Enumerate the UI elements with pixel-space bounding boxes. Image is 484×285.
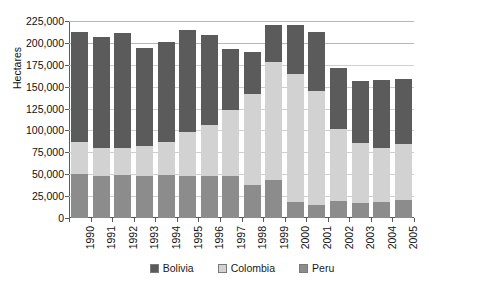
bar-segment-peru-1990 — [71, 174, 88, 218]
legend-item-colombia[interactable]: Colombia — [218, 262, 275, 274]
x-axis-label-2003: 2003 — [364, 226, 376, 249]
x-axis-tick-mark — [285, 218, 286, 222]
bar-segment-peru-2004 — [373, 202, 390, 218]
x-axis-label-1993: 1993 — [148, 226, 160, 249]
bar-segment-peru-1992 — [114, 175, 131, 218]
bar-segment-peru-1995 — [179, 176, 196, 218]
bar-segment-peru-1998 — [244, 185, 261, 218]
x-axis-label-2001: 2001 — [321, 226, 333, 249]
bar-segment-bolivia-2003 — [352, 81, 369, 142]
bar-1995 — [179, 21, 196, 218]
x-axis-label-2002: 2002 — [343, 226, 355, 249]
bar-segment-colombia-2004 — [373, 148, 390, 201]
y-axis-tick-label: 225,000 — [4, 15, 69, 27]
bar-segment-colombia-1993 — [136, 146, 153, 176]
x-axis-tick-mark — [198, 218, 199, 222]
bar-segment-peru-2002 — [330, 201, 347, 218]
x-axis-label-2005: 2005 — [407, 226, 419, 249]
bar-2005 — [395, 21, 412, 218]
bar-segment-peru-1999 — [265, 180, 282, 218]
bar-segment-bolivia-1995 — [179, 30, 196, 132]
x-axis-tick-mark — [69, 218, 70, 222]
bar-2002 — [330, 21, 347, 218]
x-axis-tick-mark — [392, 218, 393, 222]
y-axis-tick-label: 25,000 — [4, 190, 69, 202]
bar-segment-bolivia-1999 — [265, 25, 282, 62]
bar-segment-bolivia-2004 — [373, 80, 390, 149]
bar-2001 — [308, 21, 325, 218]
bar-segment-peru-1993 — [136, 176, 153, 218]
x-axis-tick-mark — [134, 218, 135, 222]
bar-segment-peru-1994 — [158, 175, 175, 218]
bar-segment-colombia-1998 — [244, 94, 261, 185]
bar-segment-colombia-1997 — [222, 110, 239, 176]
x-axis-tick-mark — [328, 218, 329, 222]
bar-series-group — [69, 21, 414, 218]
bar-segment-colombia-1994 — [158, 142, 175, 175]
bar-segment-colombia-2001 — [308, 91, 325, 205]
y-axis-tick-label: 50,000 — [4, 168, 69, 180]
plot-area: 025,00050,00075,000100,000125,000150,000… — [69, 21, 414, 218]
bar-1994 — [158, 21, 175, 218]
cut-off-header-text — [0, 0, 484, 10]
x-axis-label-1998: 1998 — [256, 226, 268, 249]
y-axis-tick-label: 175,000 — [4, 59, 69, 71]
x-axis-tick-mark — [177, 218, 178, 222]
y-axis-tick-label: 200,000 — [4, 37, 69, 49]
x-axis-label-1995: 1995 — [192, 226, 204, 249]
x-axis-tick-mark — [371, 218, 372, 222]
bar-segment-colombia-1996 — [201, 125, 218, 176]
y-axis-tick-label: 100,000 — [4, 124, 69, 136]
bar-segment-bolivia-1993 — [136, 48, 153, 146]
legend-label: Bolivia — [163, 262, 194, 274]
bar-2000 — [287, 21, 304, 218]
bar-2003 — [352, 21, 369, 218]
bar-segment-colombia-2005 — [395, 144, 412, 201]
bar-segment-peru-2000 — [287, 202, 304, 218]
x-axis-tick-mark — [91, 218, 92, 222]
bar-segment-bolivia-1990 — [71, 32, 88, 141]
bar-1998 — [244, 21, 261, 218]
bar-segment-bolivia-1991 — [93, 37, 110, 148]
x-axis-label-1997: 1997 — [235, 226, 247, 249]
y-axis-tick-label: 125,000 — [4, 103, 69, 115]
x-axis-label-1991: 1991 — [105, 226, 117, 249]
x-axis-label-2000: 2000 — [299, 226, 311, 249]
chart-legend: BoliviaColombiaPeru — [0, 262, 484, 274]
x-axis-label-2004: 2004 — [386, 226, 398, 249]
bar-segment-peru-1991 — [93, 176, 110, 218]
bar-segment-colombia-1995 — [179, 132, 196, 176]
bar-1999 — [265, 21, 282, 218]
bar-segment-bolivia-1996 — [201, 35, 218, 124]
x-axis-tick-mark — [414, 218, 415, 222]
y-axis-tick-label: 0 — [4, 212, 69, 224]
bar-segment-colombia-1999 — [265, 62, 282, 180]
x-axis-tick-mark — [112, 218, 113, 222]
x-axis-label-1992: 1992 — [127, 226, 139, 249]
x-axis-label-1999: 1999 — [278, 226, 290, 249]
bar-segment-peru-2003 — [352, 203, 369, 218]
bar-1990 — [71, 21, 88, 218]
bar-segment-bolivia-1997 — [222, 49, 239, 110]
bar-segment-colombia-2003 — [352, 143, 369, 203]
legend-swatch-colombia — [218, 264, 227, 273]
bar-2004 — [373, 21, 390, 218]
y-axis-tick-label: 150,000 — [4, 81, 69, 93]
bar-segment-colombia-2000 — [287, 74, 304, 203]
x-axis-tick-mark — [242, 218, 243, 222]
legend-item-peru[interactable]: Peru — [299, 262, 334, 274]
bar-segment-peru-2005 — [395, 200, 412, 218]
bar-segment-bolivia-2005 — [395, 79, 412, 144]
x-axis-label-1990: 1990 — [84, 226, 96, 249]
bar-segment-colombia-2002 — [330, 129, 347, 202]
bar-1992 — [114, 21, 131, 218]
bar-segment-peru-2001 — [308, 205, 325, 218]
x-axis-tick-mark — [306, 218, 307, 222]
bar-segment-colombia-1992 — [114, 148, 131, 175]
bar-segment-bolivia-1992 — [114, 33, 131, 148]
legend-item-bolivia[interactable]: Bolivia — [150, 262, 194, 274]
bar-segment-bolivia-2001 — [308, 32, 325, 92]
bar-segment-peru-1997 — [222, 176, 239, 218]
x-axis-tick-mark — [220, 218, 221, 222]
bar-segment-bolivia-2002 — [330, 68, 347, 128]
